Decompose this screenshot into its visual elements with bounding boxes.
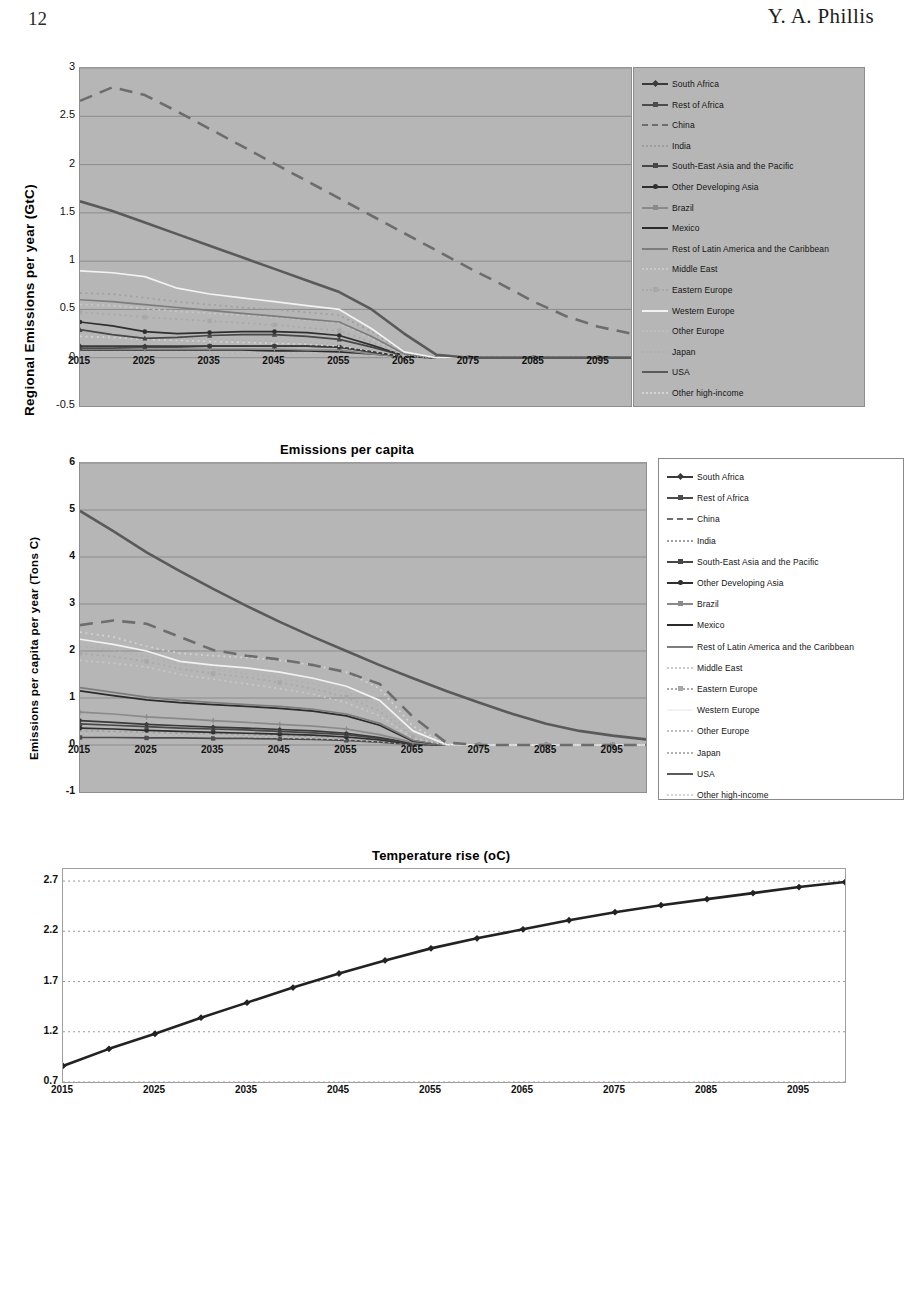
x-tick-label: 2045 (253, 355, 293, 366)
legend-item[interactable]: Mexico (642, 222, 700, 234)
legend-item[interactable]: India (642, 140, 691, 152)
legend-label: Other Developing Asia (672, 182, 759, 192)
legend-item[interactable]: Brazil (642, 202, 694, 214)
legend-item[interactable]: Brazil (667, 598, 719, 610)
series-marker (80, 726, 82, 731)
legend-item[interactable]: South Africa (642, 78, 719, 90)
legend-swatch-middle-east (667, 663, 693, 673)
series-marker (842, 879, 845, 886)
figure1-legend: South AfricaRest of AfricaChinaIndiaSout… (633, 67, 865, 407)
series-marker (337, 333, 342, 338)
series-marker (80, 310, 82, 314)
legend-swatch-other-developing-asia (642, 182, 668, 192)
figure-emissions-per-capita: Emissions per capita Emissions per capit… (0, 440, 904, 810)
x-tick-label: 2085 (525, 744, 565, 755)
legend-swatch-usa (642, 367, 668, 377)
legend-item[interactable]: India (667, 535, 716, 547)
legend-item[interactable]: USA (642, 366, 690, 378)
series-marker (337, 328, 341, 332)
legend-item[interactable]: USA (667, 768, 715, 780)
series-marker (207, 319, 211, 323)
legend-label: Mexico (697, 620, 725, 630)
series-line (80, 639, 646, 745)
y-tick-label: 2.7 (0, 873, 58, 885)
series-line (80, 201, 631, 357)
legend-item[interactable]: Rest of Africa (667, 492, 749, 504)
legend-item[interactable]: Western Europe (667, 704, 760, 716)
legend-label: China (672, 120, 695, 130)
legend-item[interactable]: Other high-income (642, 387, 744, 399)
legend-item[interactable]: South Africa (667, 471, 744, 483)
series-marker (411, 734, 415, 738)
figure-regional-emissions: Regional Emissions per year (GtC) -0.500… (0, 46, 904, 426)
series-marker (80, 735, 82, 739)
legend-label: Western Europe (672, 306, 735, 316)
legend-item[interactable]: Other Europe (642, 325, 724, 337)
legend-swatch-brazil (642, 203, 668, 213)
legend-item[interactable]: South-East Asia and the Pacific (667, 556, 819, 568)
legend-item[interactable]: Western Europe (642, 305, 735, 317)
legend-item[interactable]: Eastern Europe (642, 284, 732, 296)
x-tick-label: 2025 (134, 1084, 174, 1095)
legend-item[interactable]: Japan (642, 346, 696, 358)
legend-label: USA (697, 769, 715, 779)
legend-item[interactable]: South-East Asia and the Pacific (642, 160, 794, 172)
legend-item[interactable]: Mexico (667, 619, 725, 631)
legend-label: Japan (672, 347, 696, 357)
series-marker (144, 736, 148, 740)
legend-label: Other Europe (697, 726, 749, 736)
series-marker (272, 329, 277, 334)
legend-item[interactable]: Middle East (642, 263, 718, 275)
legend-item[interactable]: China (667, 513, 720, 525)
x-tick-label: 2085 (513, 355, 553, 366)
x-tick-label: 2015 (59, 744, 99, 755)
x-tick-label: 2095 (778, 1084, 818, 1095)
legend-label: Rest of Latin America and the Caribbean (672, 244, 829, 254)
x-tick-label: 2075 (459, 744, 499, 755)
series-line (63, 882, 845, 1066)
legend-swatch-middle-east (642, 264, 668, 274)
x-tick-label: 2015 (42, 1084, 82, 1095)
legend-label: Rest of Africa (672, 100, 724, 110)
y-tick-label: -0.5 (0, 398, 75, 410)
legend-item[interactable]: Other Europe (667, 725, 749, 737)
page-number: 12 (28, 8, 47, 30)
series-marker (344, 695, 348, 699)
legend-item[interactable]: Middle East (667, 662, 743, 674)
x-tick-label: 2055 (325, 744, 365, 755)
legend-swatch-india (642, 141, 668, 151)
legend-item[interactable]: Other Developing Asia (667, 577, 784, 589)
x-tick-label: 2095 (592, 744, 632, 755)
series-marker (211, 718, 216, 723)
legend-label: Eastern Europe (697, 684, 757, 694)
legend-item[interactable]: Japan (667, 747, 721, 759)
series-marker (344, 726, 349, 731)
legend-item[interactable]: Rest of Africa (642, 99, 724, 111)
legend-item[interactable]: Eastern Europe (667, 683, 757, 695)
legend-swatch-india (667, 536, 693, 546)
y-tick-label: 1 (0, 690, 75, 702)
series-marker (106, 1045, 113, 1052)
series-line (80, 511, 646, 739)
series-marker (80, 718, 83, 723)
legend-swatch-eastern-europe (642, 285, 668, 295)
x-tick-label: 2065 (392, 744, 432, 755)
legend-swatch-western-europe (667, 705, 693, 715)
y-tick-label: 3 (0, 60, 75, 72)
x-tick-label: 2025 (126, 744, 166, 755)
legend-item[interactable]: Other high-income (667, 789, 769, 801)
y-tick-label: 1.5 (0, 205, 75, 217)
series-marker (152, 1030, 159, 1037)
legend-item[interactable]: Rest of Latin America and the Caribbean (642, 243, 829, 255)
legend-swatch-usa (667, 769, 693, 779)
legend-item[interactable]: Other Developing Asia (642, 181, 759, 193)
y-tick-label: 2 (0, 157, 75, 169)
series-marker (336, 970, 343, 977)
legend-label: India (697, 536, 716, 546)
legend-item[interactable]: Rest of Latin America and the Caribbean (667, 641, 854, 653)
series-marker (520, 926, 527, 933)
legend-item[interactable]: China (642, 119, 695, 131)
legend-label: Eastern Europe (672, 285, 732, 295)
series-marker (566, 917, 573, 924)
y-tick-label: 1.2 (0, 1024, 58, 1036)
